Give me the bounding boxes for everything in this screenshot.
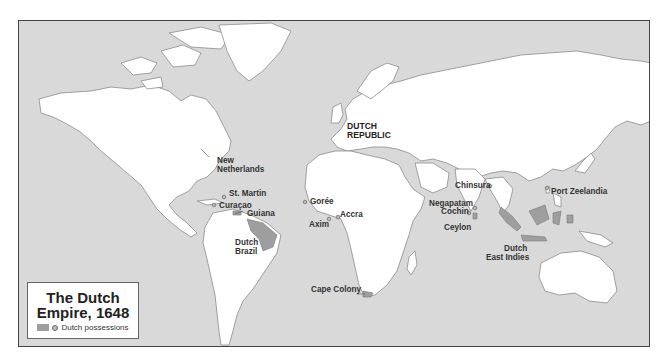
java-territory [521,235,547,241]
legend-item-dutch-possessions: Dutch possessions [28,323,138,332]
arctic-island [161,45,201,67]
new-netherlands-label: New [217,156,234,165]
legend-item-label: Dutch possessions [61,323,128,332]
dutch-republic-label: REPUBLIC [347,130,391,140]
world-map: DUTCH REPUBLIC New Netherlands St. Marti… [0,0,666,364]
dutch-brazil-label: Dutch [235,238,258,247]
cape-colony-label: Cape Colony [311,285,361,294]
accra-label: Accra [340,210,363,219]
port-zeelandia-marker [545,186,549,190]
curacao-marker [212,203,216,207]
map-legend: The Dutch Empire, 1648 Dutch possessions [27,282,139,339]
st-martin-marker [222,195,226,199]
axim-label: Axim [309,220,329,229]
dutch-east-indies-label: Dutch [504,244,527,253]
sumatra-territory [499,207,521,231]
possession-swatch-icon [37,324,49,331]
celebes-territory [553,211,561,225]
madagascar-landmass [407,251,417,275]
borneo-territory [529,205,549,225]
chinsura-label: Chinsura [455,181,491,190]
australia-landmass [539,251,617,303]
legend-title: The Dutch Empire, 1648 [28,290,138,320]
dutch-east-indies-label: East Indies [486,253,530,262]
arctic-island [121,57,157,75]
port-zeelandia-label: Port Zeelandia [551,187,608,196]
new-guinea-landmass [579,231,613,247]
settlement-dot-icon [52,325,58,331]
britain-landmass [331,103,343,123]
ceylon-label: Ceylon [444,223,471,232]
goree-label: Gorée [310,197,334,206]
greenland-landmass [219,23,291,81]
guiana-label: Guiana [247,209,275,218]
cochin-label: Cochin [441,207,469,216]
st-martin-label: St. Martin [229,189,266,198]
new-netherlands-label: Netherlands [217,165,265,174]
moluccas-territory [567,215,573,223]
negapatam-marker [473,206,477,210]
goree-marker [303,200,307,204]
north-america-landmass [39,85,231,237]
ceylon-territory [473,213,477,219]
arabia-landmass [415,163,449,193]
dutch-brazil-label: Brazil [235,247,257,256]
